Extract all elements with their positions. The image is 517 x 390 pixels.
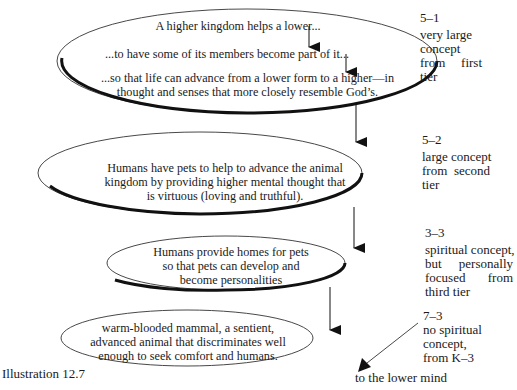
- side-note-line: very large: [420, 28, 482, 42]
- side-note-line: large concept: [422, 150, 491, 164]
- ellipse-1-line-2: ...to have some of its members become pa…: [103, 47, 351, 61]
- side-note-3-3: 3–3 spiritual concept, but personally fo…: [425, 226, 515, 299]
- side-note-line: from second: [422, 164, 490, 178]
- arrow-to-lower-mind: [367, 323, 418, 363]
- side-note-line: tier: [422, 178, 491, 192]
- ellipse-1-line-1: A higher kingdom helps a lower...: [133, 19, 343, 33]
- side-note-line: tier: [420, 70, 482, 84]
- side-note-5-2: 5–2 large concept from second tier: [422, 133, 491, 192]
- ellipse-3-line-1: Humans provide homes for pets: [136, 245, 326, 259]
- side-note-line: no spiritual: [423, 323, 485, 337]
- ellipse-3-line-2: so that pets can develop and: [136, 259, 326, 273]
- side-note-line: spiritual concept,: [425, 243, 515, 257]
- ellipse-4-line-3: enough to seek comfort and humans.: [78, 349, 298, 363]
- side-note-code: 5–2: [422, 133, 491, 147]
- side-note-line: focused from: [425, 271, 513, 285]
- side-note-7-3: 7–3 no spiritual concept, from K–3: [423, 309, 485, 365]
- lower-mind-label: to the lower mind: [355, 370, 447, 386]
- side-note-code: 3–3: [425, 226, 515, 240]
- side-note-line: but personally: [425, 257, 513, 271]
- side-note-line: from first: [420, 56, 482, 70]
- ellipse-2-line-1: Humans have pets to help to advance the …: [80, 161, 370, 175]
- ellipse-2-line-2: kingdom by providing higher mental thoug…: [80, 175, 370, 189]
- ellipse-4-line-2: advanced animal that discriminates well: [68, 335, 308, 349]
- side-note-line: third tier: [425, 285, 515, 299]
- ellipse-1-line-4: thought and senses that more closely res…: [85, 85, 410, 99]
- side-note-line: concept: [420, 42, 482, 56]
- ellipse-4-line-1: warm-blooded mammal, a sentient,: [78, 321, 298, 335]
- side-note-line: from K–3: [423, 351, 485, 365]
- ellipse-1-line-3: ...so that life can advance from a lower…: [85, 71, 410, 85]
- side-note-line: concept,: [423, 337, 485, 351]
- ellipse-2-line-3: is virtuous (loving and truthful).: [80, 189, 370, 203]
- side-note-code: 7–3: [423, 309, 485, 323]
- side-note-5-1: 5–1 very large concept from first tier: [420, 11, 482, 84]
- ellipse-3-line-3: become personalities: [136, 273, 326, 287]
- figure-caption: Illustration 12.7: [2, 366, 85, 382]
- side-note-code: 5–1: [420, 11, 482, 25]
